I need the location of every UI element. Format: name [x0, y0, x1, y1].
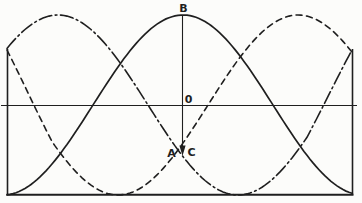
- waveform-plot: B0AC: [1, 2, 357, 195]
- label-a: A: [167, 147, 176, 160]
- label-c: C: [187, 146, 195, 159]
- waveform-svg: B0AC: [0, 0, 362, 203]
- label-b: B: [179, 2, 187, 15]
- down-arrow-icon: [179, 146, 185, 157]
- label-zero: 0: [185, 93, 193, 106]
- three-phase-waveform-figure: B0AC: [0, 0, 362, 203]
